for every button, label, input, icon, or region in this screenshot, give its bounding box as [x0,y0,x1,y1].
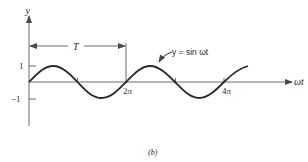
figure-caption: (b) [148,148,158,157]
curve-annotation: y = sin ωt [159,47,209,62]
x-tick-2pi: 2π [123,86,133,96]
x-tick-label-2pi: 2π [123,86,133,96]
x-axis: ωt [29,76,304,87]
y-tick-minus-1: −1 [11,94,36,104]
sine-wave-figure: y ωt 1 −1 2π 4π [0,0,308,162]
curve-label: y = sin ωt [172,47,209,57]
x-tick-label-4pi: 4π [222,86,232,96]
y-axis-label: y [25,5,31,16]
y-tick-label-1: 1 [19,61,24,71]
y-tick-1: 1 [19,61,36,71]
y-tick-label-minus-1: −1 [11,94,21,104]
x-tick-4pi: 4π [222,78,232,96]
x-axis-label: ωt [294,76,304,87]
period-marker: T [30,41,126,82]
period-label: T [73,41,80,52]
